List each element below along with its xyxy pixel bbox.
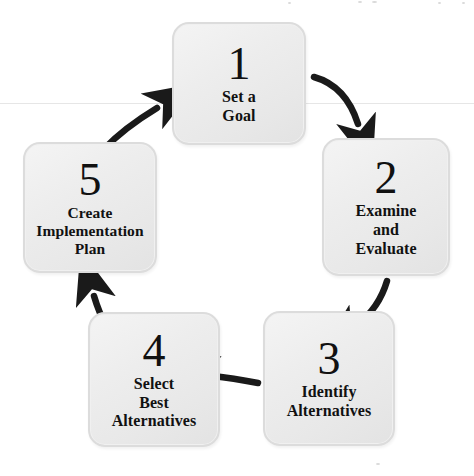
scan-artifact-speck — [376, 463, 380, 465]
scan-artifact-speck — [358, 1, 362, 3]
step-box-2[interactable]: 2 Examine and Evaluate — [322, 138, 450, 276]
step-label-3: Identify Alternatives — [287, 383, 372, 421]
step-number-4: 4 — [143, 328, 166, 373]
diagram-canvas: 1 Set a Goal 2 Examine and Evaluate 3 Id… — [0, 0, 474, 476]
step-label-4: Select Best Alternatives — [112, 375, 197, 432]
scan-artifact-speck — [438, 2, 441, 4]
scan-artifact-speck — [372, 1, 377, 3]
scan-artifact-speck — [288, 2, 291, 4]
step-label-5: Create Implementation Plan — [36, 204, 143, 259]
step-label-2: Examine and Evaluate — [355, 202, 416, 259]
step-box-5[interactable]: 5 Create Implementation Plan — [23, 142, 157, 273]
step-number-3: 3 — [318, 336, 341, 381]
scan-artifact-speck — [462, 2, 465, 4]
step-box-3[interactable]: 3 Identify Alternatives — [263, 311, 395, 446]
step-label-1: Set a Goal — [222, 88, 256, 126]
step-box-1[interactable]: 1 Set a Goal — [172, 22, 306, 145]
arrow-1-to-2 — [314, 77, 358, 124]
step-box-4[interactable]: 4 Select Best Alternatives — [88, 312, 220, 447]
step-number-2: 2 — [375, 155, 398, 200]
step-number-1: 1 — [228, 41, 251, 86]
step-number-5: 5 — [79, 157, 102, 202]
